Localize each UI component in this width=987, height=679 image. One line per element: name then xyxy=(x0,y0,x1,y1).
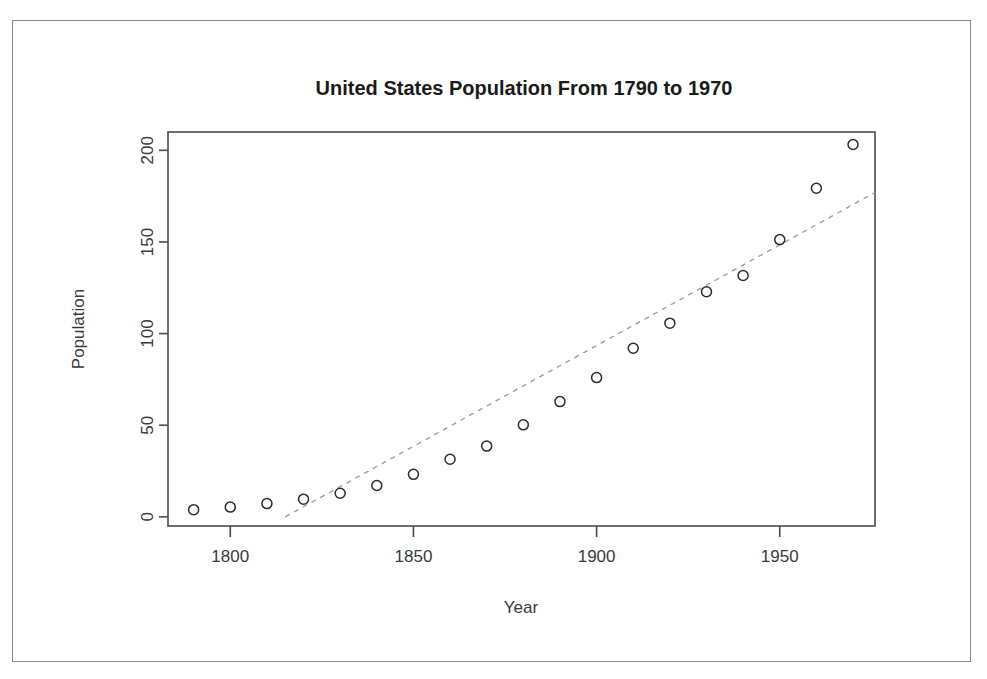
data-point-marker xyxy=(775,235,785,245)
y-tick-label: 200 xyxy=(139,136,158,164)
x-axis: 1800185019001950 xyxy=(211,526,798,566)
data-point-marker xyxy=(299,494,309,504)
y-tick-label: 50 xyxy=(139,416,158,435)
y-tick-label: 100 xyxy=(139,319,158,347)
data-point-marker xyxy=(189,505,199,515)
x-axis-label: Year xyxy=(504,598,539,617)
linear-fit-line xyxy=(285,192,875,516)
scatter-chart-svg: United States Population From 1790 to 19… xyxy=(0,0,987,679)
y-axis-label: Population xyxy=(69,289,88,369)
data-point-marker xyxy=(555,397,565,407)
chart-plot-area: United States Population From 1790 to 19… xyxy=(0,0,987,679)
data-point-marker xyxy=(335,488,345,498)
data-point-marker xyxy=(408,469,418,479)
data-point-marker xyxy=(665,318,675,328)
data-point-marker xyxy=(372,481,382,491)
data-point-marker xyxy=(811,183,821,193)
chart-title: United States Population From 1790 to 19… xyxy=(316,77,733,99)
data-point-marker xyxy=(848,139,858,149)
y-tick-label: 150 xyxy=(139,228,158,256)
y-axis: 050100150200 xyxy=(139,136,169,521)
data-point-marker xyxy=(738,270,748,280)
data-point-marker xyxy=(701,287,711,297)
data-points xyxy=(189,139,858,514)
y-tick-label: 0 xyxy=(139,512,158,521)
plot-frame xyxy=(168,132,875,526)
page-canvas: United States Population From 1790 to 19… xyxy=(0,0,987,679)
data-point-marker xyxy=(592,373,602,383)
x-tick-label: 1800 xyxy=(211,547,249,566)
data-point-marker xyxy=(482,441,492,451)
data-point-marker xyxy=(262,499,272,509)
data-point-marker xyxy=(518,420,528,430)
data-point-marker xyxy=(445,454,455,464)
x-tick-label: 1900 xyxy=(578,547,616,566)
x-tick-label: 1950 xyxy=(761,547,799,566)
data-point-marker xyxy=(225,502,235,512)
fit-line-segment xyxy=(285,192,875,516)
x-tick-label: 1850 xyxy=(395,547,433,566)
data-point-marker xyxy=(628,343,638,353)
